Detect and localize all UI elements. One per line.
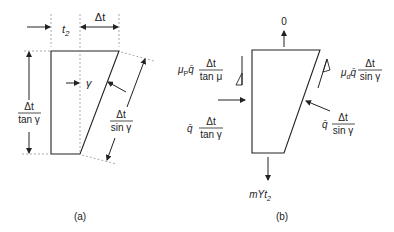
mu-d-label: μdq̄: [340, 67, 356, 80]
mu-d-denominator: sin γ: [360, 71, 381, 82]
normal-arrow-icon: [108, 82, 126, 92]
mu-p-shear-half-arrow-icon: [236, 73, 242, 85]
panel-a: t2 Δt Δt tan γ γ Δt sin γ (a): [18, 11, 154, 222]
right-dim-denominator: sin γ: [111, 122, 132, 133]
caption-a: (a): [74, 211, 86, 222]
left-dim-denominator: tan γ: [18, 114, 40, 125]
wedge-shape-b: [252, 50, 320, 153]
left-numerator: Δt: [206, 116, 216, 127]
right-numerator: Δt: [338, 112, 348, 123]
right-dim-numerator: Δt: [116, 109, 126, 120]
diagram-canvas: t2 Δt Δt tan γ γ Δt sin γ (a) 0: [0, 0, 394, 232]
right-dim-top-ext: [121, 52, 154, 61]
mu-p-numerator: Δt: [206, 58, 216, 69]
mu-d-numerator: Δt: [365, 58, 375, 69]
bottom-force-label: mYt2: [249, 189, 271, 202]
mu-p-denominator: tan μ: [200, 71, 223, 82]
gamma-label: γ: [86, 77, 93, 89]
right-dim-arrow-up-icon: [127, 59, 145, 107]
right-denominator: sin γ: [333, 125, 354, 136]
top-force-label: 0: [281, 16, 287, 27]
panel-b: 0 μPq̄ Δt tan μ q̄ Δt tan γ μdq̄ Δt sin …: [177, 16, 382, 222]
mu-p-label: μPq̄: [177, 64, 194, 77]
wedge-shape-a: [51, 51, 119, 154]
left-dim-numerator: Δt: [24, 101, 34, 112]
right-dim-bottom-ext: [82, 155, 116, 164]
left-qbar-label: q̄: [187, 123, 193, 134]
right-dim-arrow-down-icon: [107, 138, 115, 160]
caption-b: (b): [276, 211, 288, 222]
right-qbar-label: q̄: [322, 119, 328, 130]
dt-top-label: Δt: [95, 11, 105, 23]
mu-d-shear-half-arrow-icon: [323, 59, 330, 72]
left-denominator: tan γ: [200, 129, 222, 140]
right-normal-arrow-icon: [306, 101, 330, 111]
t2-label: t2: [62, 23, 70, 38]
